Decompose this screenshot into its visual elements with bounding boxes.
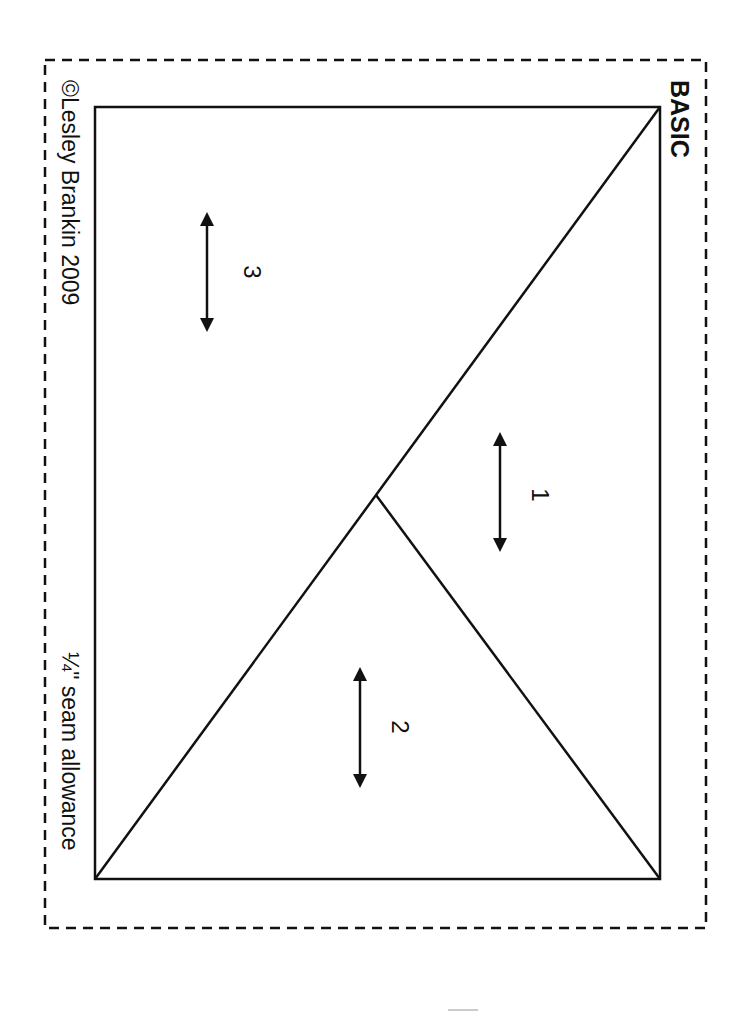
grain-arrow-icon-piece-2 <box>353 667 367 788</box>
piece-label-2: 2 <box>387 720 414 733</box>
piece-label-1: 1 <box>527 488 554 501</box>
copyright-text: ©Lesley Brankin 2009 <box>57 80 83 305</box>
quilt-pattern-sheet: 1 2 3 BASIC ©Lesley Brankin 2009 ¼" seam… <box>0 0 741 1012</box>
grain-arrow-icon-piece-1 <box>493 432 507 552</box>
pattern-title: BASIC <box>666 80 694 158</box>
piece-2-seam-line <box>376 495 660 879</box>
piece-label-3: 3 <box>239 265 266 278</box>
seam-allowance-note: ¼" seam allowance <box>57 652 83 851</box>
grain-arrow-icon-piece-3 <box>200 212 214 332</box>
